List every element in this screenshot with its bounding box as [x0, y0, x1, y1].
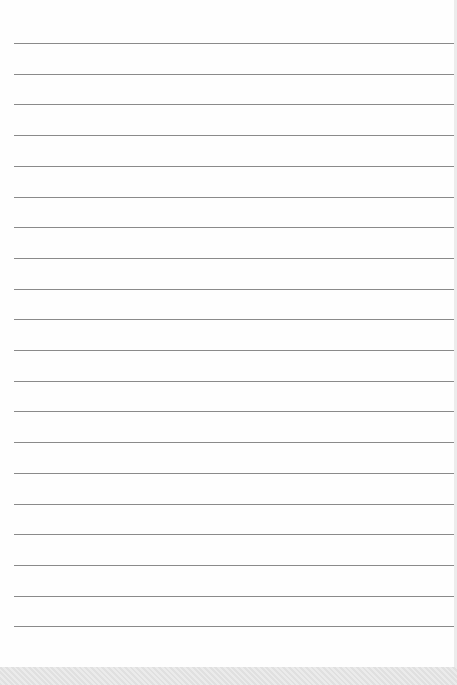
ruled-line	[14, 135, 454, 136]
ruled-line	[14, 350, 454, 351]
ruled-line	[14, 473, 454, 474]
background-band	[0, 667, 457, 685]
ruled-line	[14, 104, 454, 105]
ruled-line	[14, 411, 454, 412]
ruled-line	[14, 289, 454, 290]
ruled-line	[14, 258, 454, 259]
ruled-line	[14, 166, 454, 167]
lined-paper-page	[0, 0, 457, 667]
ruled-line	[14, 319, 454, 320]
ruled-line	[14, 534, 454, 535]
ruled-line	[14, 504, 454, 505]
ruled-line	[14, 227, 454, 228]
ruled-line	[14, 442, 454, 443]
ruled-line	[14, 74, 454, 75]
ruled-line	[14, 381, 454, 382]
ruled-line	[14, 626, 454, 627]
ruled-line	[14, 565, 454, 566]
ruled-line	[14, 596, 454, 597]
ruled-line	[14, 197, 454, 198]
ruled-line	[14, 43, 454, 44]
